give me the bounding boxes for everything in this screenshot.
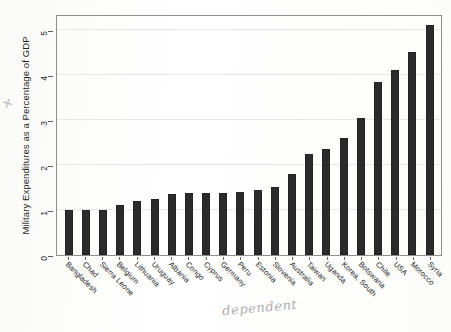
x-label-slot: Cyprus: [197, 257, 214, 329]
x-label-slot: Sierra Leone: [94, 257, 111, 329]
bar-slot: [112, 16, 129, 255]
bar-slot: [215, 16, 232, 255]
bar-series: [57, 16, 441, 255]
bar-slot: [369, 16, 386, 255]
bar-slot: [404, 16, 421, 255]
x-tick-label-syria: Syria: [426, 260, 445, 279]
y-tick-mark-1: [48, 211, 53, 212]
y-tick-mark-0: [48, 256, 53, 257]
y-tick-mark-5: [48, 31, 53, 32]
x-label-slot: Taiwan: [301, 257, 318, 329]
y-tick-mark-4: [48, 76, 53, 77]
x-label-slot: Chad: [76, 257, 93, 329]
bar-slot: [129, 16, 146, 255]
x-label-slot: Belgium: [111, 257, 128, 329]
bar-slot: [198, 16, 215, 255]
bar-lithuania: [133, 201, 141, 255]
bar-chile: [374, 82, 382, 255]
x-label-slot: Albania: [163, 257, 180, 329]
bar-belgium: [116, 205, 124, 255]
bar-chart-figure: Military Expenditures as a Percentage of…: [0, 0, 451, 332]
bar-uganda: [322, 149, 330, 255]
x-label-slot: USA: [387, 257, 404, 329]
bar-slot: [335, 16, 352, 255]
bar-sierra-leone: [99, 210, 107, 255]
bar-botswana: [357, 118, 365, 255]
bar-bangladesh: [65, 210, 73, 255]
bar-germany: [219, 193, 227, 255]
x-label-slot: Syria: [422, 257, 439, 329]
x-label-slot: Bangladesh: [59, 257, 76, 329]
x-label-slot: Estonia: [249, 257, 266, 329]
x-label-slot: Chile: [370, 257, 387, 329]
bar-slot: [352, 16, 369, 255]
x-label-slot: Australia: [283, 257, 300, 329]
y-tick-mark-3: [48, 121, 53, 122]
x-label-slot: Botswana: [353, 257, 370, 329]
y-axis: 012345: [0, 0, 56, 256]
bar-slot: [421, 16, 438, 255]
bar-slot: [146, 16, 163, 255]
bar-chad: [82, 210, 90, 255]
bar-slot: [94, 16, 111, 255]
plot-area: [56, 15, 442, 256]
bar-estonia: [254, 190, 262, 255]
bar-usa: [391, 70, 399, 255]
x-label-slot: Lithuania: [128, 257, 145, 329]
bar-slot: [249, 16, 266, 255]
x-label-slot: Uruguay: [145, 257, 162, 329]
x-label-slot: Korea, South: [335, 257, 352, 329]
bar-slot: [318, 16, 335, 255]
x-label-slot: Uganda: [318, 257, 335, 329]
bar-slot: [180, 16, 197, 255]
bar-congo: [185, 193, 193, 255]
x-label-slot: Congo: [180, 257, 197, 329]
bar-taiwan: [305, 154, 313, 255]
bar-slot: [60, 16, 77, 255]
bar-syria: [426, 25, 434, 255]
bar-albania: [168, 194, 176, 255]
y-tick-mark-2: [48, 166, 53, 167]
x-label-slot: Slovenia: [266, 257, 283, 329]
bar-cyprus: [202, 193, 210, 255]
x-label-slot: Peru: [232, 257, 249, 329]
bar-korea-south: [340, 138, 348, 255]
bar-slot: [387, 16, 404, 255]
bar-slot: [283, 16, 300, 255]
bar-slovenia: [271, 187, 279, 255]
bar-australia: [288, 174, 296, 255]
x-label-slot: Morocco: [404, 257, 421, 329]
bar-slot: [266, 16, 283, 255]
bar-slot: [77, 16, 94, 255]
bar-slot: [301, 16, 318, 255]
bar-peru: [236, 192, 244, 255]
bar-morocco: [408, 52, 416, 255]
bar-uruguay: [151, 199, 159, 255]
x-axis-labels: BangladeshChadSierra LeoneBelgiumLithuan…: [56, 257, 442, 329]
bar-slot: [163, 16, 180, 255]
bar-slot: [232, 16, 249, 255]
